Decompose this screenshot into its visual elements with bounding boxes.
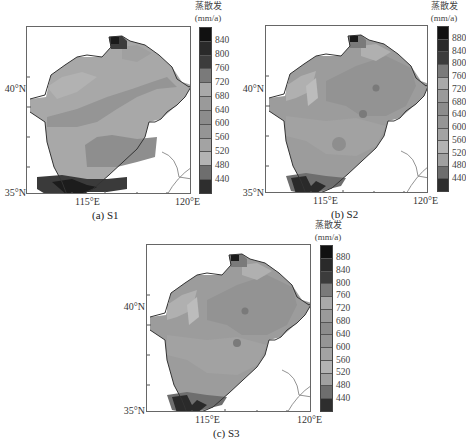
caption-a: (a) S1 — [92, 209, 119, 221]
colorbar-bin — [321, 284, 332, 297]
colorbar-tick-label: 800 — [215, 49, 229, 59]
colorbar-tick-label: 560 — [215, 132, 229, 142]
colorbar-tick-label: 680 — [336, 316, 350, 326]
colorbar-tick-label: 440 — [452, 173, 466, 183]
colorbar-unit-b: (mm/a) — [425, 12, 463, 24]
lat-label-40-b: 40°N — [234, 83, 264, 94]
colorbar-tick-label: 720 — [336, 303, 350, 313]
colorbar-bin — [200, 83, 211, 97]
colorbar-bin — [321, 361, 332, 374]
colorbar-bin — [200, 28, 211, 42]
colorbar-bin — [200, 97, 211, 111]
lon-label-120-c: 120°E — [297, 414, 322, 425]
colorbar-bin — [200, 152, 211, 166]
colorbar-bin — [200, 166, 211, 180]
colorbar-tick-label: 840 — [452, 46, 466, 56]
colorbar-a — [199, 27, 212, 194]
colorbar-title-c: 蒸散发 (mm/a) — [309, 219, 347, 243]
map-b — [266, 26, 428, 193]
map-a — [27, 27, 191, 194]
lat-label-35-a: 35°N — [0, 187, 26, 198]
colorbar-tick-label: 480 — [452, 160, 466, 170]
colorbar-tick-label: 480 — [336, 380, 350, 390]
lat-label-35-c: 35°N — [115, 405, 145, 416]
colorbar-bin — [321, 386, 332, 399]
colorbar-tick-label: 760 — [215, 63, 229, 73]
colorbar-bin — [438, 90, 448, 103]
colorbar-bin — [200, 139, 211, 153]
colorbar-bin — [438, 27, 448, 40]
colorbar-tick-label: 880 — [336, 252, 350, 262]
colorbar-bin — [438, 116, 448, 129]
colorbar-tick-label: 560 — [452, 135, 466, 145]
colorbar-bin — [321, 310, 332, 323]
colorbar-tick-label: 840 — [336, 265, 350, 275]
colorbar-title-a: 蒸散发 (mm/a) — [190, 0, 226, 24]
colorbar-bin — [438, 154, 448, 167]
colorbar-tick-label: 760 — [336, 290, 350, 300]
map-frame-a — [26, 26, 191, 194]
colorbar-b — [437, 26, 449, 192]
colorbar-tick-label: 680 — [452, 97, 466, 107]
colorbar-tick-label: 800 — [336, 278, 350, 288]
map-c — [147, 245, 311, 412]
colorbar-tick-label: 800 — [452, 58, 466, 68]
lon-label-115-c: 115°E — [195, 414, 220, 425]
colorbar-tick-label: 720 — [215, 77, 229, 87]
colorbar-tick-label: 680 — [215, 91, 229, 101]
colorbar-tick-label: 880 — [452, 33, 466, 43]
colorbar-bin — [200, 125, 211, 139]
colorbar-tick-label: 640 — [452, 109, 466, 119]
colorbar-tick-label: 560 — [336, 355, 350, 365]
map-frame-c — [146, 244, 311, 412]
colorbar-bin — [200, 69, 211, 83]
lon-label-115-a: 115°E — [75, 196, 100, 207]
colorbar-bin — [321, 323, 332, 336]
colorbar-bin — [200, 56, 211, 70]
colorbar-tick-label: 440 — [215, 174, 229, 184]
colorbar-bin — [200, 111, 211, 125]
colorbar-tick-label: 440 — [336, 393, 350, 403]
caption-c: (c) S3 — [213, 427, 240, 439]
colorbar-tick-label: 480 — [215, 160, 229, 170]
lon-label-120-b: 120°E — [413, 195, 438, 206]
colorbar-tick-label: 840 — [215, 35, 229, 45]
colorbar-bin — [321, 374, 332, 387]
colorbar-tick-label: 720 — [452, 84, 466, 94]
lat-label-40-a: 40°N — [0, 83, 26, 94]
colorbar-bin — [438, 65, 448, 78]
colorbar-bin — [438, 103, 448, 116]
colorbar-tick-label: 760 — [452, 71, 466, 81]
colorbar-label-a: 蒸散发 — [190, 0, 226, 12]
colorbar-bin — [438, 179, 448, 191]
map-frame-b — [265, 25, 428, 193]
colorbar-tick-label: 520 — [215, 146, 229, 156]
colorbar-bin — [321, 297, 332, 310]
colorbar-tick-label: 600 — [215, 118, 229, 128]
colorbar-bin — [438, 141, 448, 154]
colorbar-bin — [321, 246, 332, 259]
colorbar-label-c: 蒸散发 — [309, 219, 347, 231]
colorbar-tick-label: 600 — [452, 122, 466, 132]
colorbar-tick-label: 520 — [452, 148, 466, 158]
colorbar-label-b: 蒸散发 — [425, 0, 463, 12]
lon-label-120-a: 120°E — [175, 196, 200, 207]
colorbar-bin — [438, 52, 448, 65]
colorbar-bin — [321, 399, 332, 411]
colorbar-bin — [321, 259, 332, 272]
colorbar-bin — [321, 335, 332, 348]
lat-label-35-b: 35°N — [234, 187, 264, 198]
colorbar-tick-label: 520 — [336, 367, 350, 377]
colorbar-tick-label: 640 — [336, 329, 350, 339]
colorbar-bin — [438, 78, 448, 91]
colorbar-bin — [438, 40, 448, 53]
colorbar-bin — [438, 167, 448, 180]
lat-label-40-c: 40°N — [115, 301, 145, 312]
colorbar-bin — [321, 348, 332, 361]
colorbar-c — [320, 245, 333, 412]
colorbar-bin — [200, 180, 211, 193]
colorbar-tick-label: 600 — [336, 342, 350, 352]
colorbar-unit-a: (mm/a) — [190, 12, 226, 24]
colorbar-bin — [438, 129, 448, 142]
lon-label-115-b: 115°E — [313, 195, 338, 206]
